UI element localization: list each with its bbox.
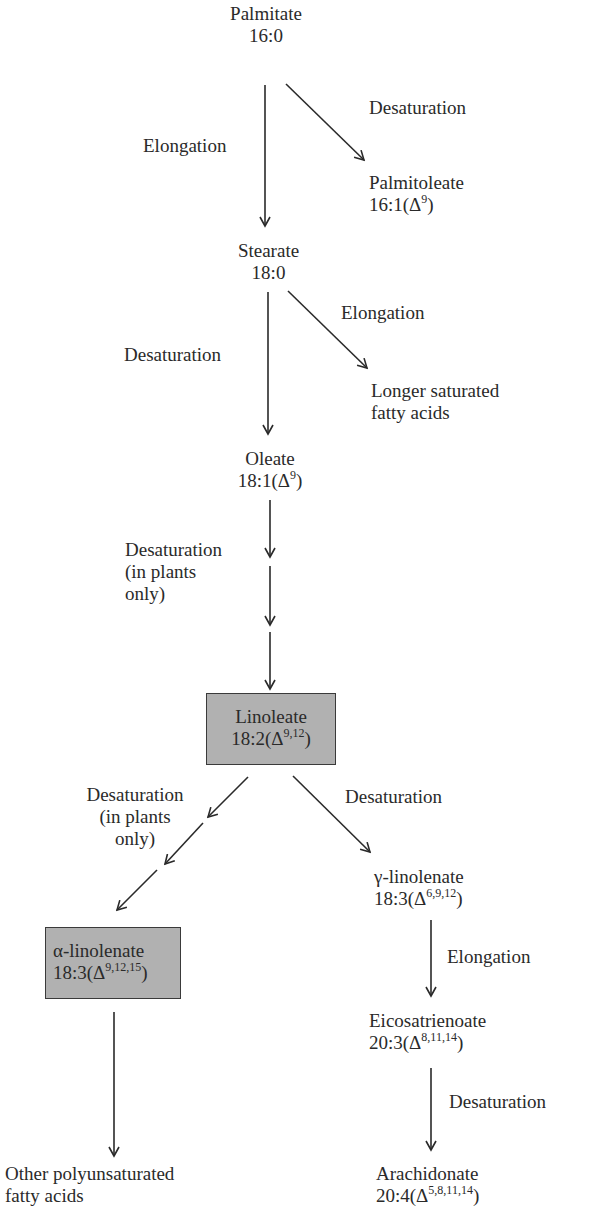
node-name: Stearate (216, 240, 321, 262)
edge-label-eicosatrienoate-desaturation: Desaturation (449, 1091, 546, 1113)
node-gamma-linolenate: γ-linolenate 18:3(Δ6,9,12) (374, 866, 464, 910)
edge-label-palmitate-desaturation: Desaturation (369, 97, 466, 119)
node-name: α-linolenate (53, 940, 180, 962)
node-formula: 20:4(Δ5,8,11,14) (376, 1185, 479, 1207)
edge-label-linoleate-desaturation-plants: Desaturation (in plants only) (60, 784, 210, 850)
arrow-linoleate-to-alpha-1 (208, 777, 248, 817)
edge-label-gamma-elongation: Elongation (447, 946, 530, 968)
node-name: Palmitate (216, 3, 316, 25)
node-formula: 18:3(Δ6,9,12) (374, 888, 464, 910)
node-name: Linoleate (207, 706, 335, 728)
node-formula: 18:1(Δ9) (220, 470, 320, 492)
node-stearate: Stearate 18:0 (216, 240, 321, 284)
node-formula: 16:0 (216, 25, 316, 47)
arrow-layer (0, 0, 593, 1223)
edge-label-stearate-desaturation: Desaturation (124, 344, 221, 366)
node-palmitoleate: Palmitoleate 16:1(Δ9) (369, 172, 464, 216)
edge-label-linoleate-desaturation: Desaturation (345, 786, 442, 808)
arrow-linoleate-to-alpha-3 (117, 870, 157, 910)
arrow-palmitate-to-palmitoleate (286, 84, 364, 160)
node-linoleate: Linoleate 18:2(Δ9,12) (206, 693, 336, 765)
edge-label-oleate-desaturation: Desaturation (in plants only) (125, 539, 222, 605)
node-name: Oleate (220, 448, 320, 470)
node-formula: 20:3(Δ8,11,14) (369, 1032, 486, 1054)
node-alpha-linolenate: α-linolenate 18:3(Δ9,12,15) (45, 927, 181, 999)
node-name: Eicosatrienoate (369, 1010, 486, 1032)
edge-label-palmitate-elongation: Elongation (143, 135, 226, 157)
node-formula: 18:0 (216, 262, 321, 284)
pathway-diagram: Palmitate 16:0 Desaturation Elongation P… (0, 0, 593, 1223)
node-name: Palmitoleate (369, 172, 464, 194)
node-formula: 18:3(Δ9,12,15) (53, 962, 180, 984)
node-oleate: Oleate 18:1(Δ9) (220, 448, 320, 492)
node-formula: 18:2(Δ9,12) (207, 728, 335, 750)
node-other-polyunsaturated: Other polyunsaturated fatty acids (5, 1163, 174, 1207)
edge-label-stearate-elongation: Elongation (341, 302, 424, 324)
node-arachidonate: Arachidonate 20:4(Δ5,8,11,14) (376, 1163, 479, 1207)
node-name: γ-linolenate (374, 866, 464, 888)
node-eicosatrienoate: Eicosatrienoate 20:3(Δ8,11,14) (369, 1010, 486, 1054)
node-name: Arachidonate (376, 1163, 479, 1185)
node-formula: 16:1(Δ9) (369, 194, 464, 216)
node-longer-saturated: Longer saturated fatty acids (371, 380, 499, 424)
node-palmitate: Palmitate 16:0 (216, 3, 316, 47)
